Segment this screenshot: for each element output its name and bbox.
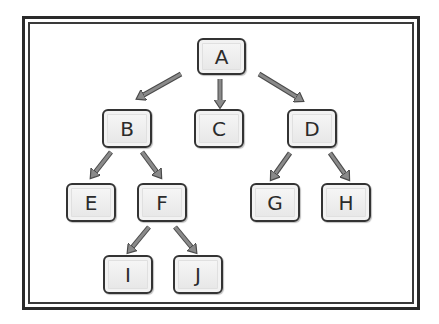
node-label: H <box>338 191 353 215</box>
arrow-a-to-b-icon <box>140 74 181 97</box>
tree-node-a: A <box>197 38 246 75</box>
arrow-f-to-j-icon <box>175 227 194 250</box>
tree-node-j: J <box>173 255 223 294</box>
tree-node-f: F <box>137 183 187 222</box>
arrow-f-to-i-icon <box>130 227 149 250</box>
arrow-d-to-g-icon <box>273 153 290 177</box>
node-label: F <box>156 191 168 215</box>
node-label: A <box>215 45 229 69</box>
tree-node-b: B <box>102 109 152 148</box>
tree-node-c: C <box>194 109 244 148</box>
arrow-b-to-f-icon <box>142 152 159 175</box>
arrow-d-to-h-icon <box>330 153 347 177</box>
node-label: J <box>195 263 201 287</box>
tree-node-i: I <box>103 255 153 294</box>
tree-node-h: H <box>321 183 371 222</box>
tree-node-e: E <box>66 183 116 222</box>
arrow-a-to-d-icon <box>259 74 300 99</box>
node-label: E <box>85 191 98 215</box>
node-label: D <box>304 117 319 141</box>
arrow-b-to-e-icon <box>93 152 111 175</box>
node-label: B <box>120 117 134 141</box>
tree-node-g: G <box>250 183 300 222</box>
node-label: I <box>125 263 131 287</box>
node-label: C <box>212 117 226 141</box>
tree-node-d: D <box>287 109 337 148</box>
node-label: G <box>267 191 283 215</box>
